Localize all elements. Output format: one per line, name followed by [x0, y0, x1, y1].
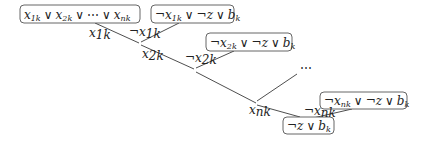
edge-label-x1k: x1k: [89, 26, 111, 42]
edge-label-x2k: x2k: [142, 47, 164, 63]
clause-text: ¬xnk∨¬z∨bk: [324, 94, 410, 109]
clause-text: ¬x1k∨¬z∨bk: [155, 8, 240, 23]
clause-text: ¬z∨bk: [287, 119, 331, 134]
clause-text: ¬x2k∨¬z∨bk: [210, 36, 295, 51]
edge-label-xnk: xnk: [249, 103, 271, 119]
edge-ellipsis-to-rn: [257, 74, 297, 101]
edge-label-neg-x1k: ¬x1k: [129, 25, 161, 41]
clause-node-3: ¬x2k∨¬z∨bk: [206, 33, 295, 51]
edge-label-neg-xnk: ¬xnk: [304, 104, 336, 120]
edge-label-neg-x2k: ¬x2k: [185, 51, 217, 67]
ellipsis: ⋯: [300, 61, 312, 75]
resolution-tree-diagram: x1k∨x2k∨⋯∨xnk ¬x1k∨¬z∨bk ¬x2k∨¬z∨bk ¬xnk…: [0, 0, 425, 145]
clause-node-1: x1k∨x2k∨⋯∨xnk: [20, 5, 140, 23]
clause-node-2: ¬x1k∨¬z∨bk: [151, 5, 240, 23]
edge-r2-to-rn: [196, 72, 256, 103]
